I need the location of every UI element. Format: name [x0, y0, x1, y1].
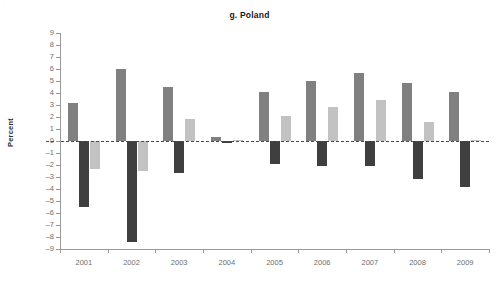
y-tick-label: –4 [30, 185, 54, 193]
x-tick-label-2002: 2002 [108, 258, 156, 267]
y-tick-label: 6 [30, 65, 54, 73]
bar-series-2-2007 [365, 141, 375, 166]
y-tick-label: 8 [30, 41, 54, 49]
y-tick-mark [56, 177, 60, 178]
y-tick-mark [56, 153, 60, 154]
x-tick-mark [203, 249, 204, 253]
y-tick-label: 9 [30, 29, 54, 37]
x-tick-label-2009: 2009 [441, 258, 489, 267]
bar-series-3-2007 [376, 100, 386, 141]
bar-series-2-2002 [127, 141, 137, 242]
x-tick-mark [394, 249, 395, 253]
y-tick-label: –7 [30, 221, 54, 229]
y-tick-label: 2 [30, 113, 54, 121]
bar-series-1-2006 [306, 81, 316, 141]
bar-series-1-2007 [354, 73, 364, 141]
y-tick-mark [56, 45, 60, 46]
zero-reference-line [46, 141, 489, 142]
y-tick-mark [56, 237, 60, 238]
x-tick-label-2005: 2005 [251, 258, 299, 267]
y-tick-mark [56, 129, 60, 130]
bar-series-2-2001 [79, 141, 89, 207]
bar-series-3-2006 [328, 107, 338, 141]
y-tick-mark [56, 117, 60, 118]
bar-series-2-2008 [413, 141, 423, 179]
y-tick-label: 4 [30, 89, 54, 97]
y-tick-label: –9 [30, 245, 54, 253]
x-tick-label-2006: 2006 [298, 258, 346, 267]
x-tick-label-2004: 2004 [203, 258, 251, 267]
bar-series-1-2003 [163, 87, 173, 141]
y-tick-mark [56, 69, 60, 70]
x-tick-label-2007: 2007 [346, 258, 394, 267]
x-tick-mark [60, 249, 61, 253]
bar-series-1-2005 [259, 92, 269, 141]
bar-series-3-2002 [138, 141, 148, 171]
y-tick-mark [56, 189, 60, 190]
bar-series-1-2002 [116, 69, 126, 141]
y-tick-mark [56, 93, 60, 94]
x-tick-mark [489, 249, 490, 253]
y-axis-tick-labels: 9876543210–1–2–3–4–5–6–7–8–9 [28, 0, 54, 285]
bar-series-1-2001 [68, 103, 78, 141]
y-tick-mark [56, 201, 60, 202]
x-tick-label-2003: 2003 [155, 258, 203, 267]
bar-series-3-2005 [281, 116, 291, 141]
bar-series-3-2003 [185, 119, 195, 141]
y-tick-label: 1 [30, 125, 54, 133]
x-tick-mark [155, 249, 156, 253]
x-tick-label-2001: 2001 [60, 258, 108, 267]
y-tick-label: –8 [30, 233, 54, 241]
y-tick-mark [56, 165, 60, 166]
y-tick-mark [56, 141, 60, 142]
x-tick-label-2008: 2008 [394, 258, 442, 267]
bar-series-2-2005 [270, 141, 280, 164]
y-tick-label: 5 [30, 77, 54, 85]
bar-series-2-2009 [460, 141, 470, 187]
x-tick-mark [108, 249, 109, 253]
y-tick-mark [56, 81, 60, 82]
y-tick-mark [56, 105, 60, 106]
x-axis-line [60, 249, 489, 250]
y-tick-mark [56, 225, 60, 226]
y-tick-mark [56, 33, 60, 34]
x-tick-mark [346, 249, 347, 253]
y-axis-title: Percent [6, 103, 15, 163]
y-tick-label: –1 [30, 149, 54, 157]
y-tick-label: 3 [30, 101, 54, 109]
y-tick-mark [56, 213, 60, 214]
y-tick-label: 7 [30, 53, 54, 61]
y-tick-label: –2 [30, 161, 54, 169]
x-tick-mark [251, 249, 252, 253]
bar-series-2-2006 [317, 141, 327, 166]
y-tick-label: –6 [30, 209, 54, 217]
y-tick-label: –3 [30, 173, 54, 181]
x-tick-mark [441, 249, 442, 253]
y-tick-mark [56, 57, 60, 58]
bar-series-1-2009 [449, 92, 459, 141]
bar-series-3-2001 [90, 141, 100, 169]
bar-series-1-2008 [402, 83, 412, 141]
chart-figure: · · · · · · g. Poland Percent 9876543210… [0, 0, 499, 285]
chart-title: g. Poland [0, 10, 499, 20]
bar-series-2-2003 [174, 141, 184, 173]
bar-series-3-2008 [424, 122, 434, 141]
x-tick-mark [298, 249, 299, 253]
y-tick-label: –5 [30, 197, 54, 205]
